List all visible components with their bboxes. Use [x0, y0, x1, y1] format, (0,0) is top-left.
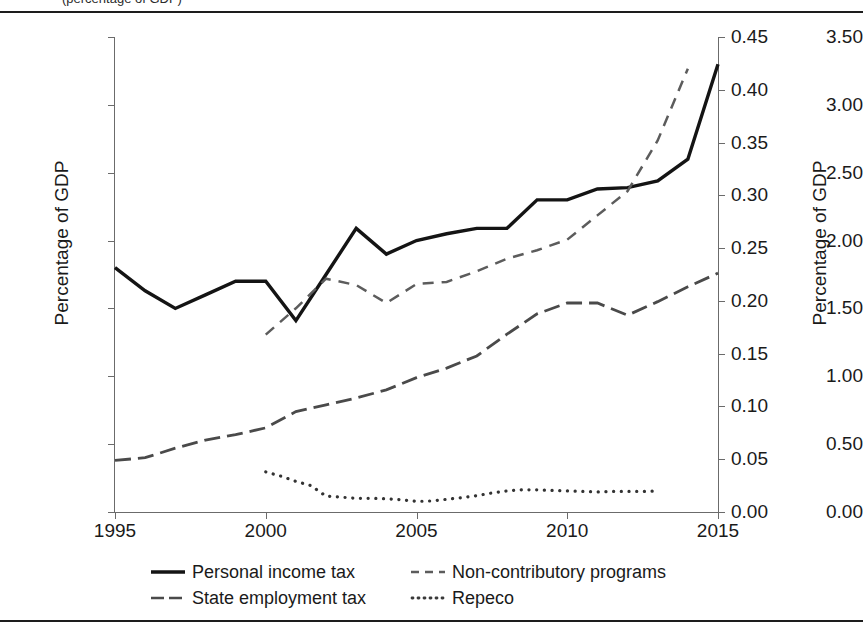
figure-caption: (percentage of GDP) [62, 0, 182, 6]
right-axis-tick-label: 0.45 [731, 27, 793, 46]
legend-item-state-employment-tax[interactable]: State employment tax [150, 588, 410, 609]
legend-item-repeco[interactable]: Repeco [410, 588, 514, 609]
top-rule [0, 11, 863, 13]
right-axis-tick-label: 0.35 [731, 133, 793, 152]
right-axis-tick-label: 0.20 [731, 291, 793, 310]
left-axis-title: Percentage of GDP [51, 113, 73, 373]
right-axis-tick-label: 0.30 [731, 185, 793, 204]
series-canvas [115, 37, 718, 512]
right-axis-tick [718, 459, 725, 460]
right-axis-tick-label: 0.10 [731, 396, 793, 415]
right-axis-tick-label: 0.05 [731, 449, 793, 468]
legend-row-1: Personal income tax Non-contributory pro… [150, 560, 666, 584]
legend-swatch-dashed-short-icon [410, 565, 446, 579]
legend-label-personal-income-tax: Personal income tax [192, 562, 355, 583]
left-axis-tick-label: 0.00 [805, 502, 863, 521]
legend-item-personal-income-tax[interactable]: Personal income tax [150, 562, 410, 583]
right-axis-line [718, 37, 719, 513]
right-axis-tick [718, 354, 725, 355]
legend-label-repeco: Repeco [452, 588, 514, 609]
left-axis-tick [108, 241, 115, 242]
bottom-axis-tick [718, 512, 719, 519]
bottom-axis-tick-label: 2000 [226, 521, 306, 540]
right-axis-tick [718, 90, 725, 91]
legend-swatch-dotted-icon [410, 591, 446, 605]
right-axis-tick-label: 0.25 [731, 238, 793, 257]
right-axis-tick-label: 0.40 [731, 80, 793, 99]
legend-label-non-contributory-programs: Non-contributory programs [452, 562, 666, 583]
right-axis-title: Percentage of GDP [809, 113, 831, 373]
bottom-axis-tick [115, 512, 116, 519]
left-axis-tick [108, 308, 115, 309]
right-axis-tick [718, 512, 725, 513]
right-axis-tick [718, 195, 725, 196]
right-axis-tick [718, 143, 725, 144]
right-axis-tick [718, 37, 725, 38]
bottom-axis-tick-label: 2005 [377, 521, 457, 540]
series-line-state-employment-tax [115, 273, 718, 460]
right-axis-tick [718, 406, 725, 407]
bottom-axis-tick-label: 2010 [527, 521, 607, 540]
left-axis-tick [108, 105, 115, 106]
bottom-axis-tick-label: 1995 [75, 521, 155, 540]
plot-area [115, 37, 718, 512]
legend-item-non-contributory-programs[interactable]: Non-contributory programs [410, 562, 666, 583]
legend-swatch-dashed-long-icon [150, 591, 186, 605]
right-axis-tick-label: 0.15 [731, 344, 793, 363]
left-axis-tick [108, 173, 115, 174]
series-line-non-contributory-programs [266, 69, 688, 335]
left-axis-tick-label: 3.50 [805, 27, 863, 46]
right-axis-tick [718, 301, 725, 302]
chart-legend: Personal income tax Non-contributory pro… [150, 560, 770, 612]
left-axis-tick [108, 512, 115, 513]
bottom-axis-tick [266, 512, 267, 519]
left-axis-tick [108, 37, 115, 38]
bottom-axis-tick [417, 512, 418, 519]
legend-swatch-solid-icon [150, 565, 186, 579]
bottom-axis-tick [567, 512, 568, 519]
figure-caption-strip: (percentage of GDP) [0, 0, 863, 11]
right-axis-tick-label: 0.00 [731, 502, 793, 521]
left-axis-tick [108, 376, 115, 377]
bottom-axis-tick-label: 2015 [678, 521, 758, 540]
left-axis-tick-label: 0.50 [805, 434, 863, 453]
figure-panel: (percentage of GDP) 0.000.501.001.502.00… [0, 0, 863, 640]
left-axis-tick-label: 3.00 [805, 95, 863, 114]
legend-label-state-employment-tax: State employment tax [192, 588, 366, 609]
bottom-rule [0, 620, 863, 622]
left-axis-tick [108, 444, 115, 445]
legend-row-2: State employment tax Repeco [150, 586, 514, 610]
series-line-repeco [266, 472, 658, 502]
right-axis-tick [718, 248, 725, 249]
